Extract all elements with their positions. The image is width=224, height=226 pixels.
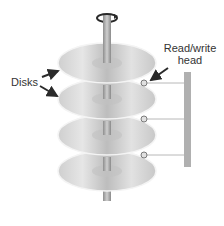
head-3 bbox=[141, 152, 147, 158]
head-label-line1: Read/write bbox=[162, 42, 218, 54]
head-1 bbox=[141, 80, 147, 86]
head-2 bbox=[141, 116, 147, 122]
disks-arrow-1 bbox=[42, 71, 58, 77]
disk-1 bbox=[58, 40, 156, 83]
actuator-arm bbox=[184, 72, 191, 167]
head-label: Read/write head bbox=[162, 42, 218, 66]
disks-label: Disks bbox=[11, 76, 38, 88]
head-label-line2: head bbox=[162, 54, 218, 66]
disk-diagram bbox=[0, 0, 224, 226]
disks-arrow-2 bbox=[40, 86, 57, 96]
